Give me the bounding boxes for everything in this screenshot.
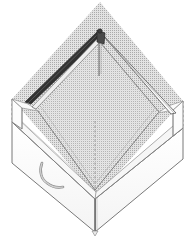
figure-caption xyxy=(0,231,190,249)
technical-drawing xyxy=(0,0,190,249)
figure-root xyxy=(0,0,190,249)
